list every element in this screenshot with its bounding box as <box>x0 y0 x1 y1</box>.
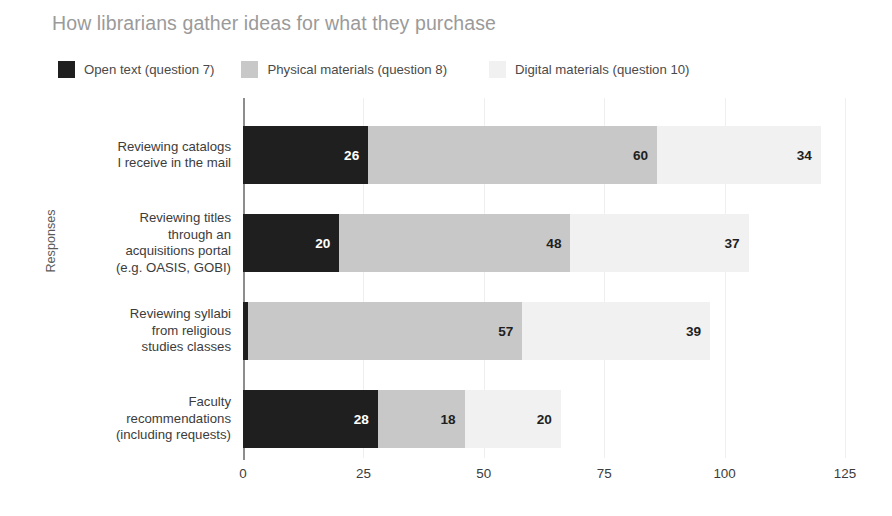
bar-value-label: 34 <box>797 148 812 163</box>
category-label-3: Facultyrecommendations(including request… <box>45 394 231 444</box>
bar-segment[interactable]: 60 <box>368 126 657 184</box>
category-label-line: Reviewing syllabi <box>45 306 231 323</box>
category-label-line: (e.g. OASIS, GOBI) <box>45 260 231 277</box>
category-label-line: acquisitions portal <box>45 243 231 260</box>
bar-segment[interactable]: 57 <box>248 302 523 360</box>
bar-segment[interactable]: 34 <box>657 126 821 184</box>
legend-swatch-icon <box>241 61 258 78</box>
x-tick-label: 0 <box>213 466 273 481</box>
legend-label: Open text (question 7) <box>84 62 214 77</box>
bar-row-3[interactable]: 281820 <box>243 390 561 448</box>
bar-segment[interactable]: 39 <box>522 302 710 360</box>
bar-segment[interactable]: 37 <box>570 214 748 272</box>
bar-segment[interactable]: 20 <box>243 214 339 272</box>
bar-value-label: 28 <box>354 412 369 427</box>
chart-legend: Open text (question 7)Physical materials… <box>58 58 690 80</box>
category-label-line: Faculty <box>45 394 231 411</box>
bar-segment[interactable]: 26 <box>243 126 368 184</box>
x-tick-label: 75 <box>574 466 634 481</box>
bar-value-label: 57 <box>498 324 513 339</box>
bar-row-2[interactable]: 15739 <box>243 302 710 360</box>
bar-value-label: 20 <box>537 412 552 427</box>
x-tick-label: 50 <box>454 466 514 481</box>
bar-value-label: 18 <box>440 412 455 427</box>
bar-row-0[interactable]: 266034 <box>243 126 821 184</box>
x-tick-label: 100 <box>695 466 755 481</box>
x-tick-label: 25 <box>333 466 393 481</box>
bar-segment[interactable]: 28 <box>243 390 378 448</box>
category-label-1: Reviewing titlesthrough anacquisitions p… <box>45 210 231 276</box>
bar-segment[interactable]: 18 <box>378 390 465 448</box>
legend-swatch-icon <box>489 61 506 78</box>
bar-segment[interactable]: 48 <box>339 214 570 272</box>
gridline-125 <box>845 98 846 458</box>
bar-value-label: 37 <box>725 236 740 251</box>
category-label-line: recommendations <box>45 411 231 428</box>
bar-row-1[interactable]: 204837 <box>243 214 749 272</box>
legend-swatch-icon <box>58 61 75 78</box>
bar-value-label: 60 <box>633 148 648 163</box>
bar-value-label: 20 <box>315 236 330 251</box>
category-label-2: Reviewing syllabifrom religiousstudies c… <box>45 306 231 356</box>
category-label-line: from religious <box>45 323 231 340</box>
category-label-line: (including requests) <box>45 427 231 444</box>
category-label-line: through an <box>45 227 231 244</box>
legend-item-2[interactable]: Digital materials (question 10) <box>489 61 689 78</box>
category-label-line: I receive in the mail <box>45 155 231 172</box>
chart-title: How librarians gather ideas for what the… <box>52 12 496 35</box>
bar-value-label: 48 <box>546 236 561 251</box>
plot-area: 26603420483715739281820 <box>243 98 845 458</box>
bar-value-label: 39 <box>686 324 701 339</box>
legend-label: Digital materials (question 10) <box>515 62 689 77</box>
legend-label: Physical materials (question 8) <box>267 62 447 77</box>
category-label-line: Reviewing catalogs <box>45 139 231 156</box>
category-label-0: Reviewing catalogsI receive in the mail <box>45 139 231 172</box>
category-label-line: Reviewing titles <box>45 210 231 227</box>
bar-value-label: 26 <box>344 148 359 163</box>
legend-item-1[interactable]: Physical materials (question 8) <box>241 61 447 78</box>
category-label-line: studies classes <box>45 339 231 356</box>
bar-segment[interactable]: 20 <box>465 390 561 448</box>
legend-item-0[interactable]: Open text (question 7) <box>58 61 214 78</box>
x-tick-label: 125 <box>815 466 875 481</box>
